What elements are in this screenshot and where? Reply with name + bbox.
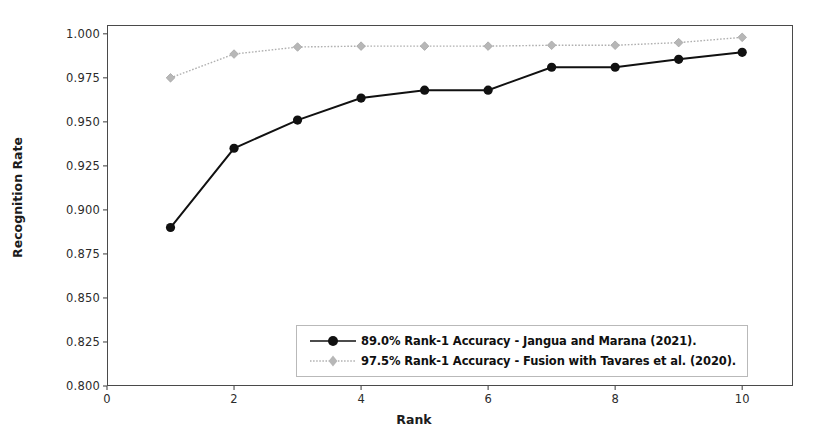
legend-item[interactable]: 97.5% Rank-1 Accuracy - Fusion with Tava… — [305, 351, 739, 371]
y-tick-label: 0.950 — [42, 115, 100, 129]
y-tick-label: 0.975 — [42, 71, 100, 85]
x-tick-label: 4 — [341, 392, 381, 406]
x-tick-label: 0 — [87, 392, 127, 406]
chart-legend[interactable]: 89.0% Rank-1 Accuracy - Jangua and Maran… — [296, 325, 748, 377]
y-tick-label: 0.900 — [42, 203, 100, 217]
y-axis-label: Recognition Rate — [10, 118, 25, 278]
y-tick-label: 0.875 — [42, 247, 100, 261]
y-tick-label: 0.850 — [42, 291, 100, 305]
legend-marker-series-2 — [305, 352, 361, 370]
x-tick-label: 2 — [214, 392, 254, 406]
legend-marker-series-1 — [305, 332, 361, 350]
legend-label-series-1: 89.0% Rank-1 Accuracy - Jangua and Maran… — [361, 334, 697, 348]
x-tick-label: 6 — [468, 392, 508, 406]
y-axis-tick-labels: 0.8000.8250.8500.8750.9000.9250.9500.975… — [40, 0, 100, 446]
x-axis-label: Rank — [0, 412, 828, 427]
y-tick-label: 0.825 — [42, 335, 100, 349]
legend-label-series-2: 97.5% Rank-1 Accuracy - Fusion with Tava… — [361, 354, 736, 368]
figure-canvas: 0.8000.8250.8500.8750.9000.9250.9500.975… — [0, 0, 828, 446]
x-tick-label: 10 — [722, 392, 762, 406]
y-tick-label: 0.925 — [42, 159, 100, 173]
y-tick-label: 1.000 — [42, 27, 100, 41]
legend-item[interactable]: 89.0% Rank-1 Accuracy - Jangua and Maran… — [305, 331, 739, 351]
y-tick-label: 0.800 — [42, 379, 100, 393]
x-tick-label: 8 — [595, 392, 635, 406]
